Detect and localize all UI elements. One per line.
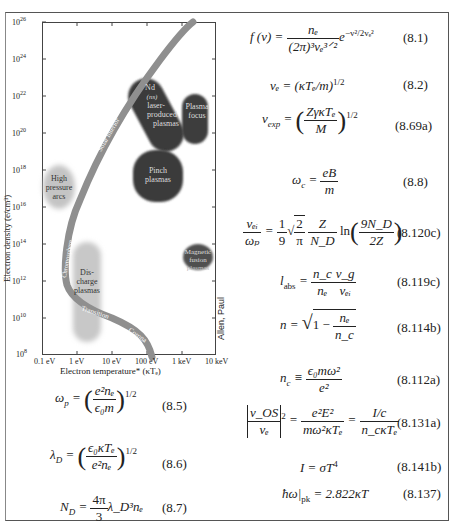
- x-tick-1: 1 eV: [69, 357, 84, 366]
- svg-text:fusion: fusion: [189, 256, 207, 264]
- equation-8-114b: n = √1 − nₑn_c: [280, 309, 356, 343]
- equation-8-131a: v_OSvₑ2 = e²E²mω²κTₑ = I/cn_cκTₑ: [247, 405, 399, 438]
- svg-text:(ns): (ns): [147, 93, 159, 101]
- equation-8-5: ωp = (e²nₑϵ₀m)1/2: [55, 383, 136, 416]
- y-axis-label: Electron density (e/cm³): [2, 195, 12, 282]
- equation-8-8: ωc = eBm: [292, 165, 338, 198]
- svg-text:Pinch: Pinch: [149, 166, 167, 175]
- y-tick-12: 1012: [12, 275, 26, 286]
- y-tick-26: 1026: [12, 16, 26, 27]
- svg-text:plasmas: plasmas: [145, 175, 171, 184]
- equation-8-7: ND = 4π3λ_D³nₑ: [60, 492, 143, 525]
- equation-tag-8-2: (8.2): [403, 77, 428, 93]
- svg-text:laser-: laser-: [147, 101, 165, 110]
- x-tick-3: 100 eV: [135, 357, 158, 366]
- curve-label-solar: Solar interior: [96, 116, 122, 153]
- svg-text:plasmas: plasmas: [74, 286, 100, 295]
- equation-tag-8-114b: (8.114b): [397, 320, 441, 336]
- svg-text:pressure: pressure: [46, 183, 73, 192]
- equation-tag-8-141b: (8.141b): [397, 459, 441, 475]
- equation-tag-8-119c: (8.119c): [397, 274, 440, 290]
- svg-text:Dis-: Dis-: [80, 268, 94, 277]
- svg-text:focus: focus: [188, 111, 205, 120]
- equation-tag-8-6: (8.6): [162, 456, 187, 472]
- curve-label-chromosphere: Chromosphere: [60, 239, 74, 278]
- equation-tag-8-112a: (8.112a): [397, 372, 440, 388]
- equation-8-141b: I = σT4: [300, 459, 338, 476]
- y-tick-18: 1018: [12, 164, 26, 175]
- equation-tag-8-120c: (8.120c): [397, 225, 441, 241]
- svg-text:High: High: [51, 174, 67, 183]
- equation-8-2: vₑ = (κTₑ/m)1/2: [270, 77, 345, 94]
- equation-8-120c: νₑᵢωₚ = 19√2π ZN_D ln(9N_D2Z): [243, 215, 402, 249]
- equation-tag-8-1: (8.1): [403, 30, 428, 46]
- x-axis-label: Electron temperature* (κTₑ): [60, 366, 161, 376]
- equation-8-6: λD = (ϵ₀κTₑe²nₑ)1/2: [50, 440, 137, 473]
- svg-text:charge: charge: [76, 277, 98, 286]
- x-tick-2: 10 eV: [102, 357, 121, 366]
- svg-text:Magnetic: Magnetic: [185, 248, 211, 256]
- x-tick-4: 1 keV: [172, 357, 191, 366]
- equation-tag-8-8: (8.8): [403, 174, 428, 190]
- credit-label: Allen, Paul: [216, 297, 226, 340]
- y-tick-8: 108: [16, 348, 27, 359]
- equation-8-112a: nc ≡ ϵ₀mω²e²: [280, 363, 342, 396]
- svg-text:plasmas: plasmas: [153, 119, 179, 128]
- svg-text:produced: produced: [147, 110, 177, 119]
- y-tick-20: 1020: [12, 127, 26, 138]
- equation-tag-8-137: (8.137): [403, 486, 441, 502]
- equation-8-137: ħω|pk = 2.822κT: [282, 486, 368, 504]
- x-tick-5: 10 keV: [205, 357, 228, 366]
- svg-text:arcs: arcs: [53, 192, 66, 201]
- svg-text:Plasma: Plasma: [185, 102, 209, 111]
- y-tick-14: 1014: [12, 238, 26, 249]
- equation-tag-8-5: (8.5): [162, 398, 187, 414]
- equation-8-1: f (v) = nₑ(2π)³vₑ³ᐟ²e−v²/2vₑ²: [250, 22, 374, 55]
- svg-text:Nd: Nd: [145, 83, 155, 92]
- svg-text:plasmas: plasmas: [187, 264, 210, 272]
- y-tick-16: 1016: [12, 201, 26, 212]
- equation-8-119c: labs = n_cnₑv_gνₑᵢ: [280, 266, 356, 299]
- y-tick-24: 1024: [12, 53, 26, 64]
- equation-tag-8-69a: (8.69a): [395, 118, 432, 134]
- equation-tag-8-7: (8.7): [162, 500, 187, 516]
- x-tick-0: 0.1 eV: [34, 357, 55, 366]
- y-tick-10: 1010: [12, 312, 26, 323]
- y-tick-22: 1022: [12, 90, 26, 101]
- equation-tag-8-131a: (8.131a): [397, 415, 441, 431]
- equation-8-69a: vexp = (ZγκTₑM)1/2: [262, 104, 358, 137]
